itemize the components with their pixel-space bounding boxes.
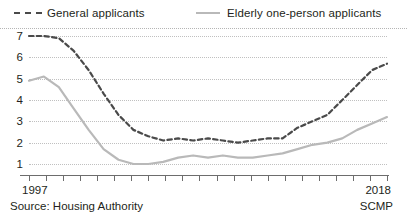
x-axis-tick <box>336 175 337 181</box>
y-axis-label-7: 7 <box>17 30 23 42</box>
y-axis-label-4: 4 <box>17 94 23 106</box>
x-axis-tick <box>353 175 354 181</box>
x-axis-tick <box>285 175 286 181</box>
legend-item-elderly-applicants: Elderly one-person applicants <box>194 7 381 19</box>
chart-container: General applicants Elderly one-person ap… <box>0 0 407 223</box>
x-axis-tick <box>97 175 98 181</box>
x-axis-tick <box>199 175 200 181</box>
line-elderly-one-person-applicants <box>29 77 387 164</box>
legend-label-general-applicants: General applicants <box>47 7 145 19</box>
x-axis-tick <box>131 175 132 181</box>
x-axis-tick <box>165 175 166 181</box>
x-axis-tick <box>370 175 371 181</box>
y-axis-label-3: 3 <box>17 115 23 127</box>
x-axis-tick <box>29 175 30 181</box>
y-axis-label-6: 6 <box>17 51 23 63</box>
dashed-line-icon <box>14 8 42 18</box>
x-axis-tick <box>251 175 252 181</box>
x-axis-tick <box>63 175 64 181</box>
x-axis-tick <box>217 175 218 181</box>
source-note: Source: Housing Authority <box>10 200 143 212</box>
x-axis-tick <box>234 175 235 181</box>
x-axis-tick <box>302 175 303 181</box>
y-axis-label-1: 1 <box>17 158 23 170</box>
x-axis-tick <box>182 175 183 181</box>
plot-area: 7 6 5 4 3 2 1 <box>29 36 387 164</box>
x-axis <box>20 175 389 176</box>
legend-item-general-applicants: General applicants <box>14 7 145 19</box>
solid-line-icon <box>194 8 222 18</box>
chart-legend: General applicants Elderly one-person ap… <box>0 7 407 25</box>
gridline-1 <box>29 164 387 165</box>
x-axis-tick <box>387 175 388 181</box>
x-axis-tick <box>114 175 115 181</box>
legend-divider <box>0 28 407 29</box>
x-axis-tick <box>46 175 47 181</box>
y-axis-label-2: 2 <box>17 137 23 149</box>
x-axis-tick <box>148 175 149 181</box>
credit-label: SCMP <box>360 200 393 212</box>
x-axis-tick <box>80 175 81 181</box>
x-axis-tick <box>268 175 269 181</box>
x-axis-label-end: 2018 <box>365 184 391 196</box>
x-axis-label-start: 1997 <box>22 184 48 196</box>
line-general-applicants <box>29 36 387 143</box>
y-axis-label-5: 5 <box>17 73 23 85</box>
legend-label-elderly-applicants: Elderly one-person applicants <box>227 7 381 19</box>
series-lines <box>29 36 387 164</box>
x-axis-tick <box>319 175 320 181</box>
